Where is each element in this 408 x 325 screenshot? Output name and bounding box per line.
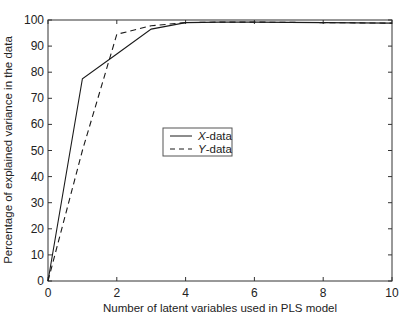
y-tick-label: 30 — [31, 196, 45, 210]
x-tick-label: 0 — [45, 286, 52, 300]
legend-item-x-data: X-data — [197, 130, 232, 142]
x-axis-label: Number of latent variables used in PLS m… — [103, 302, 337, 314]
y-tick-label: 20 — [31, 222, 45, 236]
y-tick-label: 10 — [31, 248, 45, 262]
x-tick-label: 6 — [251, 286, 258, 300]
legend: X-data Y-data — [163, 128, 232, 156]
y-tick-label: 0 — [37, 274, 44, 288]
y-tick-label: 100 — [24, 13, 44, 27]
legend-item-y-data: Y-data — [198, 143, 232, 155]
y-tick-label: 50 — [31, 144, 45, 158]
x-tick-label: 2 — [113, 286, 120, 300]
y-axis-label: Percentage of explained variance in the … — [2, 36, 14, 264]
x-tick-label: 8 — [320, 286, 327, 300]
y-tick-label: 60 — [31, 117, 45, 131]
y-tick-label: 80 — [31, 65, 45, 79]
y-tick-label: 70 — [31, 91, 45, 105]
x-tick-label: 10 — [385, 286, 399, 300]
y-tick-label: 40 — [31, 170, 45, 184]
y-tick-label: 90 — [31, 39, 45, 53]
x-tick-label: 4 — [182, 286, 189, 300]
chart: 02468100102030405060708090100 Number of … — [0, 0, 408, 325]
